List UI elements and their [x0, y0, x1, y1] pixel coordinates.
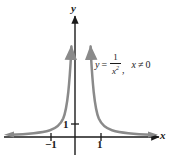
- y-axis-tick-label-1: 1: [63, 119, 69, 130]
- equation-lhs: y: [95, 60, 99, 70]
- x-axis-tick-label-neg-1: −1: [45, 139, 57, 150]
- x-axis-tick-label-1: 1: [97, 139, 103, 150]
- plot-area: [0, 0, 172, 161]
- fraction-denominator: x2: [110, 64, 121, 76]
- domain-variable: x: [132, 60, 136, 70]
- graph-figure: −1 1 1 y x y = 1 x2 , x ≠ 0: [0, 0, 172, 161]
- x-axis-label: x: [160, 130, 166, 141]
- equation-comma: ,: [122, 65, 125, 76]
- denominator-exponent: 2: [116, 65, 119, 71]
- not-equal-sign: ≠: [138, 60, 144, 70]
- equation-annotation: y = 1 x2 , x ≠ 0: [95, 53, 151, 76]
- y-axis-label: y: [71, 3, 76, 14]
- equation-fraction: 1 x2: [110, 53, 121, 76]
- fraction-numerator: 1: [111, 53, 120, 63]
- equation-equals-sign: =: [101, 60, 107, 70]
- domain-excluded-value: 0: [146, 60, 151, 70]
